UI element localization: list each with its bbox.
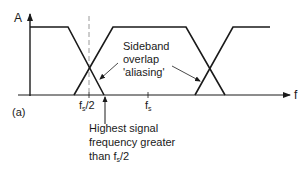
aliasing-arrow-right	[172, 66, 200, 81]
tick-label-fs: fs	[145, 99, 152, 115]
tick-label-half-fs: fs/2	[79, 99, 95, 115]
annotation-text: /2	[120, 150, 129, 162]
sideband-overlap-annotation: Sideband overlap 'aliasing'	[123, 40, 170, 79]
annotation-line: 'aliasing'	[123, 66, 170, 79]
highest-signal-annotation: Highest signal frequency greater than fs…	[89, 121, 175, 167]
annotation-line: overlap	[123, 53, 170, 66]
aliasing-arrow-left	[100, 63, 118, 79]
annotation-line: Sideband	[123, 40, 170, 53]
x-axis-label: f	[294, 89, 297, 101]
annotation-line: frequency greater	[89, 135, 175, 149]
tick-label-fs-sub: s	[148, 105, 152, 112]
panel-label: (a)	[12, 106, 25, 118]
annotation-line: than fs/2	[89, 149, 175, 167]
annotation-line: Highest signal	[89, 121, 175, 135]
y-axis-label: A	[14, 12, 22, 24]
tick-label-half-fs-tail: /2	[86, 99, 95, 111]
annotation-text: than f	[89, 150, 117, 162]
